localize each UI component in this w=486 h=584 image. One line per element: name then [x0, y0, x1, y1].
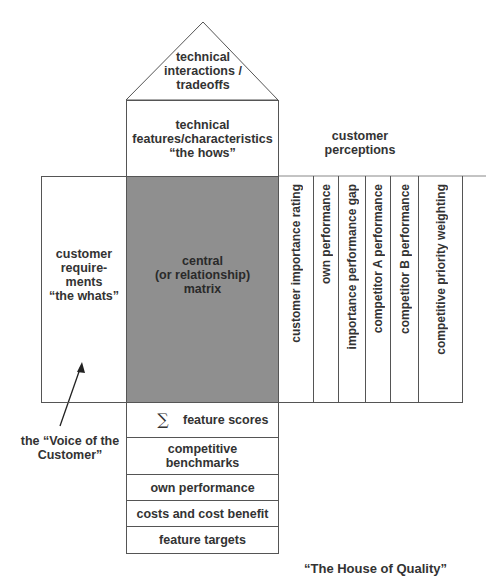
- column-label: customer importance rating: [289, 184, 303, 343]
- row-label: costs and cost benefit: [137, 507, 269, 521]
- row-own-performance: own performance: [127, 475, 278, 501]
- hows-line: “the hows”: [169, 146, 236, 160]
- column-competitive-priority-weighting: competitive priority weighting: [419, 176, 462, 402]
- perceptions-line: customer: [332, 129, 388, 143]
- column-label: importance performance gap: [345, 184, 359, 349]
- column-own-performance: own performance: [314, 176, 339, 402]
- whats-line: ments: [66, 275, 103, 289]
- roof-line: tradeoffs: [176, 78, 229, 92]
- column-label: competitor B performance: [398, 184, 412, 334]
- row-costs: costs and cost benefit: [127, 501, 278, 527]
- column-label: competitor A performance: [371, 184, 385, 333]
- column-importance-performance-gap: importance performance gap: [339, 176, 366, 402]
- roof-label: technical interactions / tradeoffs: [140, 46, 266, 96]
- column-customer-importance-rating: customer importance rating: [278, 176, 314, 402]
- row-feature-scores: ∑ feature scores: [127, 402, 278, 438]
- diagram-title: “The House of Quality”: [304, 561, 447, 576]
- hows-line: technical: [175, 118, 229, 132]
- voice-of-customer-label: the “Voice of the Customer”: [14, 432, 126, 464]
- matrix-line: central: [182, 254, 223, 268]
- row-label: own performance: [150, 481, 254, 495]
- roof-line: interactions /: [164, 64, 242, 78]
- row-competitive-benchmarks: competitive benchmarks: [127, 438, 278, 475]
- row-label: feature scores: [183, 413, 268, 427]
- roof-line: technical: [176, 50, 230, 64]
- whats-box: customer require- ments “the whats”: [41, 176, 127, 403]
- bottom-rows: ∑ feature scores competitive benchmarks …: [126, 402, 279, 554]
- column-label: own performance: [319, 184, 333, 284]
- row-feature-targets: feature targets: [127, 527, 278, 553]
- customer-perceptions-heading: customer perceptions: [300, 126, 420, 160]
- whats-line: “the whats”: [49, 289, 119, 303]
- perceptions-line: perceptions: [325, 143, 396, 157]
- voice-line: the “Voice of the: [21, 434, 119, 448]
- column-label: competitive priority weighting: [434, 184, 448, 355]
- relationship-matrix: central (or relationship) matrix: [126, 176, 279, 403]
- row-label: competitive benchmarks: [157, 442, 248, 470]
- matrix-line: matrix: [184, 282, 222, 296]
- voice-line: Customer”: [38, 448, 103, 462]
- column-competitor-a-performance: competitor A performance: [366, 176, 391, 402]
- row-label: feature targets: [159, 533, 246, 547]
- hows-line: features/characteristics: [132, 132, 272, 146]
- perception-columns: customer importance rating own performan…: [278, 176, 463, 403]
- whats-line: require-: [61, 261, 108, 275]
- whats-line: customer: [56, 247, 112, 261]
- hows-box: technical features/characteristics “the …: [126, 100, 279, 177]
- sigma-icon: ∑: [143, 413, 183, 427]
- column-competitor-b-performance: competitor B performance: [391, 176, 419, 402]
- matrix-line: (or relationship): [155, 268, 250, 282]
